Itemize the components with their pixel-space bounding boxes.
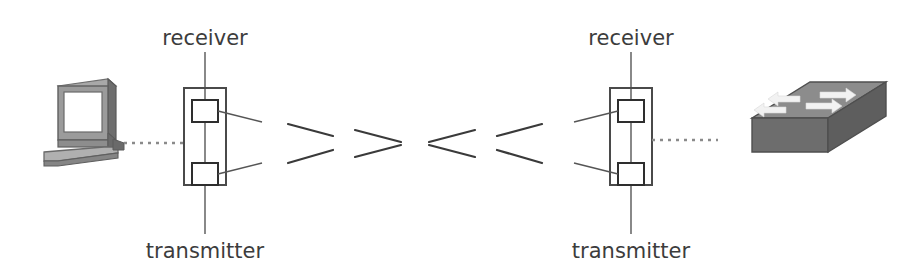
left-receiver-leader — [218, 111, 262, 122]
optical-link-diagram: receiver transmitter — [0, 0, 905, 274]
switch-front-face — [752, 118, 828, 152]
left-transceiver-module — [184, 52, 262, 234]
beam-segment — [429, 130, 475, 142]
left-receiver-label: receiver — [162, 26, 248, 50]
right-transmitter-label: transmitter — [572, 239, 691, 263]
right-transceiver-module — [574, 52, 652, 234]
beam-segment — [288, 150, 333, 163]
beam-segment — [429, 145, 475, 157]
left-receiver-port — [192, 100, 218, 122]
right-transmitter-leader — [574, 163, 618, 174]
network-switch-icon — [752, 82, 886, 152]
beam-segment — [497, 124, 542, 136]
beam-segment — [497, 150, 542, 163]
right-receiver-label: receiver — [588, 26, 674, 50]
right-receiver-port — [618, 100, 644, 122]
free-space-optical-beam — [288, 124, 542, 163]
left-transmitter-label: transmitter — [146, 239, 265, 263]
left-transmitter-leader — [218, 163, 262, 174]
diagram-canvas: receiver transmitter — [0, 0, 905, 274]
desktop-computer-icon — [44, 79, 124, 166]
beam-segment — [355, 145, 401, 157]
right-transmitter-port — [618, 163, 644, 185]
right-receiver-leader — [574, 111, 618, 122]
beam-segment — [288, 124, 333, 136]
left-transmitter-port — [192, 163, 218, 185]
beam-segment — [355, 130, 401, 142]
